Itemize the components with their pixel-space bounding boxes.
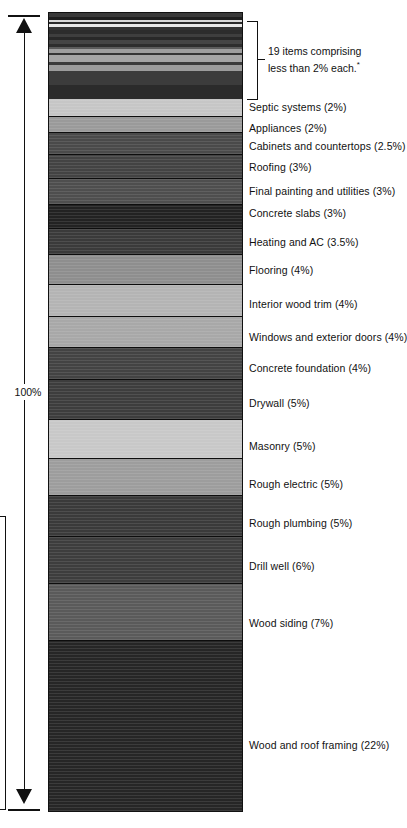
axis-bottom-cap (8, 809, 40, 811)
segment-texture (49, 641, 242, 811)
bar-segment (49, 205, 242, 229)
segment-texture (49, 420, 242, 459)
bar-segment (49, 13, 242, 99)
arrow-down-icon (16, 789, 32, 804)
segment-label: Interior wood trim (4%) (249, 298, 358, 310)
segment-label: Final painting and utilities (3%) (249, 185, 395, 197)
micro-items-bracket-tick (258, 59, 265, 60)
segment-texture (49, 584, 242, 639)
segment-label: Drywall (5%) (249, 397, 310, 409)
segment-label: Masonry (5%) (249, 440, 316, 452)
segment-texture (49, 133, 242, 154)
segment-texture (49, 537, 242, 583)
bar-segment (49, 496, 242, 537)
segment-label: Rough electric (5%) (249, 478, 343, 490)
axis-measure-line (24, 22, 25, 802)
micro-items-callout: 19 items comprising less than 2% each.* (268, 45, 361, 75)
cropped-neighbor-bracket (0, 516, 6, 810)
micro-bar-segment (49, 85, 242, 99)
bar-segment (49, 179, 242, 204)
micro-bar-segment (49, 71, 242, 85)
segment-texture (49, 285, 242, 316)
segment-label: Wood siding (7%) (249, 617, 333, 629)
segment-texture (49, 205, 242, 228)
bar-segment (49, 641, 242, 811)
stacked-bar-chart (48, 12, 243, 812)
segment-label: Rough plumbing (5%) (249, 517, 352, 529)
micro-items-callout-line1: 19 items comprising (268, 45, 361, 57)
bar-segment (49, 285, 242, 317)
bar-segment (49, 348, 242, 380)
bar-segment (49, 99, 242, 117)
bar-segment (49, 117, 242, 133)
bar-segment (49, 229, 242, 255)
micro-items-bracket (247, 21, 258, 100)
segment-label: Windows and exterior doors (4%) (249, 331, 407, 343)
segment-texture (49, 317, 242, 347)
bar-segment (49, 380, 242, 420)
segment-texture (49, 496, 242, 536)
segment-label: Roofing (3%) (249, 161, 311, 173)
segment-texture (49, 155, 242, 178)
segment-label: Drill well (6%) (249, 560, 315, 572)
segment-texture (49, 179, 242, 203)
segment-texture (49, 99, 242, 116)
micro-bar-segment (49, 55, 242, 62)
total-percent-label: 100% (8, 384, 48, 400)
bar-segment (49, 459, 242, 496)
footnote-marker: * (357, 60, 360, 69)
bar-segment (49, 155, 242, 179)
segment-texture (49, 255, 242, 284)
segment-texture (49, 380, 242, 419)
micro-items-callout-line2: less than 2% each. (268, 62, 357, 74)
bar-segment (49, 255, 242, 285)
segment-label: Wood and roof framing (22%) (249, 739, 389, 751)
segment-label: Concrete foundation (4%) (249, 362, 371, 374)
segment-label: Appliances (2%) (249, 122, 327, 134)
bar-segment (49, 133, 242, 155)
segment-texture (49, 348, 242, 379)
bar-segment (49, 584, 242, 640)
bar-segment (49, 420, 242, 460)
segment-texture (49, 459, 242, 495)
bar-segment (49, 317, 242, 348)
axis-top-cap (8, 15, 40, 17)
segment-label: Flooring (4%) (249, 264, 313, 276)
segment-label: Heating and AC (3.5%) (249, 236, 359, 248)
segment-texture (49, 229, 242, 254)
bar-segment (49, 537, 242, 584)
segment-label: Cabinets and countertops (2.5%) (249, 140, 406, 152)
segment-label: Septic systems (2%) (249, 101, 347, 113)
segment-label: Concrete slabs (3%) (249, 207, 346, 219)
segment-texture (49, 117, 242, 132)
